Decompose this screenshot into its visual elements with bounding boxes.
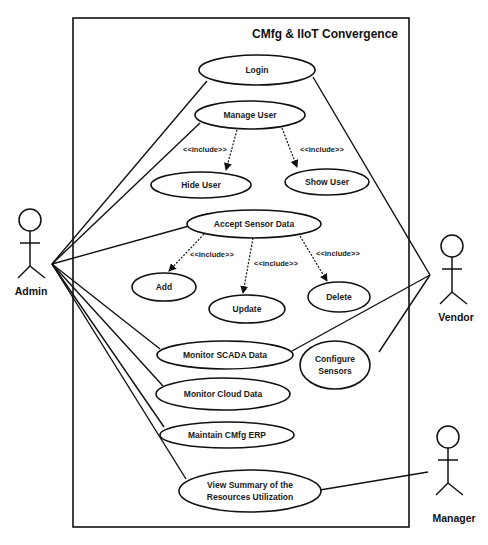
use-case-update[interactable]: Update <box>209 295 285 323</box>
use-case-manage-user[interactable]: Manage User <box>195 101 305 129</box>
include-arrow-manage_user-hide_user <box>226 130 237 170</box>
system-title: CMfg & IIoT Convergence <box>252 27 398 41</box>
use-case-login[interactable]: Login <box>199 55 315 85</box>
include-arrow-accept_sensor_data-delete <box>300 236 327 281</box>
include-arrow-manage_user-show_user <box>282 128 297 167</box>
use-case-label: View Summary of the <box>207 480 293 490</box>
use-case-label: Monitor Cloud Data <box>184 389 263 399</box>
use-case-label: Sensors <box>318 366 352 376</box>
association-vendor-configure_sensors <box>379 275 430 352</box>
actor-manager[interactable]: Manager <box>432 426 475 524</box>
use-case-ellipse[interactable] <box>300 341 370 389</box>
use-case-view-summary[interactable]: View Summary of theResources Utilization <box>179 470 321 512</box>
stick-figure-icon <box>440 235 467 304</box>
include-arrow-accept_sensor_data-update <box>243 238 253 293</box>
actor-label: Vendor <box>438 311 474 323</box>
use-case-label: Delete <box>326 292 352 302</box>
use-case-label: Show User <box>305 177 350 187</box>
actor-label: Manager <box>432 512 475 524</box>
include-label: <<include>> <box>300 145 344 154</box>
use-case-configure-sensors[interactable]: ConfigureSensors <box>300 341 370 389</box>
use-case-hide-user[interactable]: Hide User <box>151 172 251 198</box>
stick-figure-icon <box>436 426 463 495</box>
use-case-label: Maintain CMfg ERP <box>188 430 266 440</box>
include-label: <<include>> <box>254 259 298 268</box>
use-case-label: Resources Utilization <box>207 492 293 502</box>
use-case-label: Accept Sensor Data <box>214 219 295 229</box>
use-case-label: Add <box>156 282 173 292</box>
use-case-delete[interactable]: Delete <box>308 282 370 312</box>
association-manager-view_summary <box>320 472 428 490</box>
use-case-label: Configure <box>315 354 355 364</box>
actor-label: Admin <box>15 285 48 297</box>
include-label: <<include>> <box>316 249 360 258</box>
use-case-add[interactable]: Add <box>132 273 196 301</box>
use-case-ellipse[interactable] <box>179 470 321 512</box>
system-boundary <box>73 18 409 527</box>
stick-figure-icon <box>18 209 45 278</box>
include-label: <<include>> <box>183 145 227 154</box>
use-case-label: Login <box>245 65 268 75</box>
include-label: <<include>> <box>190 250 234 259</box>
use-case-monitor-scada[interactable]: Monitor SCADA Data <box>157 341 293 369</box>
use-case-show-user[interactable]: Show User <box>285 169 369 195</box>
use-case-diagram: CMfg & IIoT Convergence <<include>><<inc… <box>0 0 488 545</box>
use-case-label: Manage User <box>224 110 278 120</box>
actor-admin[interactable]: Admin <box>15 209 48 297</box>
use-case-label: Hide User <box>181 180 221 190</box>
use-case-label: Monitor SCADA Data <box>183 350 267 360</box>
use-case-monitor-cloud[interactable]: Monitor Cloud Data <box>156 378 290 410</box>
use-case-maintain-erp[interactable]: Maintain CMfg ERP <box>160 422 294 448</box>
use-case-label: Update <box>233 304 262 314</box>
actor-vendor[interactable]: Vendor <box>438 235 474 323</box>
use-case-accept-sensor-data[interactable]: Accept Sensor Data <box>187 210 321 238</box>
use-cases: LoginManage UserHide UserShow UserAccept… <box>132 55 370 512</box>
